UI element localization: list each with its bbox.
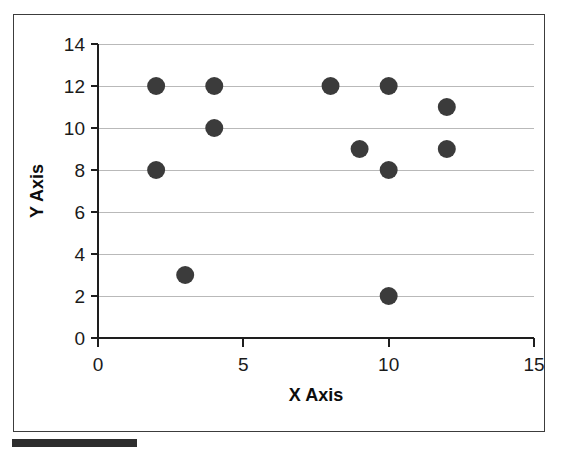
x-tick-label-5: 5 xyxy=(238,354,249,375)
y-tick-label-12: 12 xyxy=(64,76,85,97)
y-tick-label-6: 6 xyxy=(74,202,85,223)
y-tick-label-10: 10 xyxy=(64,118,85,139)
data-point-4 xyxy=(438,98,456,116)
y-tick-label-2: 2 xyxy=(74,286,85,307)
data-point-0 xyxy=(147,77,165,95)
x-tick-label-15: 15 xyxy=(523,354,544,375)
data-point-5 xyxy=(205,119,223,137)
y-tick-label-0: 0 xyxy=(74,328,85,349)
data-point-8 xyxy=(147,161,165,179)
data-point-2 xyxy=(322,77,340,95)
data-point-9 xyxy=(380,161,398,179)
y-tick-label-4: 4 xyxy=(74,244,85,265)
tick-labels-group: 02468101214051015 xyxy=(64,34,545,375)
x-tick-label-10: 10 xyxy=(378,354,399,375)
y-tick-label-14: 14 xyxy=(64,34,86,55)
data-point-11 xyxy=(380,287,398,305)
data-point-7 xyxy=(438,140,456,158)
points-group xyxy=(147,77,456,305)
y-axis-title: Y Axis xyxy=(27,164,47,218)
data-point-10 xyxy=(176,266,194,284)
data-point-6 xyxy=(351,140,369,158)
axis-titles-group: X AxisY Axis xyxy=(27,164,343,405)
x-tick-label-0: 0 xyxy=(93,354,104,375)
y-tick-label-8: 8 xyxy=(74,160,85,181)
scatter-chart: 02468101214051015 X AxisY Axis xyxy=(0,0,574,451)
data-point-3 xyxy=(380,77,398,95)
data-point-1 xyxy=(205,77,223,95)
x-axis-title: X Axis xyxy=(289,385,343,405)
caption-bar xyxy=(12,439,137,447)
